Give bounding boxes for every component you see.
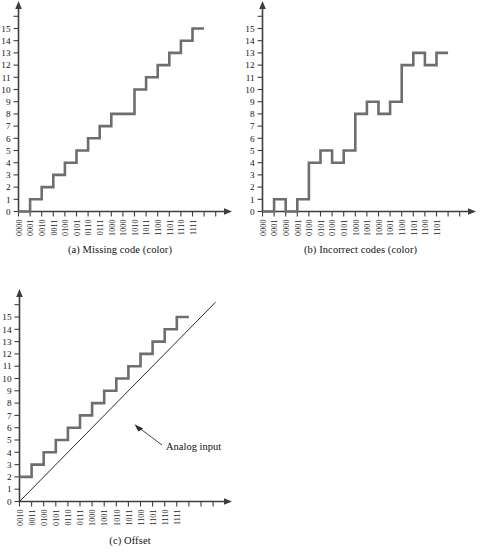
x-tick-label: 1000 xyxy=(108,220,117,236)
x-tick-label: 1101 xyxy=(166,220,175,236)
x-tick-label: 1011 xyxy=(125,510,134,526)
y-axis-arrow-a xyxy=(15,1,22,9)
y-tick-label: 15 xyxy=(2,312,12,322)
x-tick-label: 0100 xyxy=(305,220,314,236)
x-tick-label: 0100 xyxy=(61,220,70,236)
x-tick-label: 1011 xyxy=(142,220,151,236)
y-tick-label: 3 xyxy=(6,170,11,180)
y-tick-label: 15 xyxy=(1,24,11,34)
x-tick-label: 1100 xyxy=(398,220,407,236)
chart-c-analog-input-line xyxy=(20,302,216,501)
figure-adc-transfer-curves: 0123456789101112131415 00000001001000110… xyxy=(0,0,481,559)
y-tick-label: 1 xyxy=(250,195,255,205)
y-tick-label: 5 xyxy=(6,146,11,156)
x-axis-arrow-b xyxy=(468,208,476,215)
y-tick-label: 0 xyxy=(250,207,255,217)
x-tick-label: 1101 xyxy=(410,220,419,236)
y-tick-label: 12 xyxy=(245,60,255,70)
y-tick-label: 11 xyxy=(3,361,12,371)
x-tick-label: 1110 xyxy=(161,510,170,526)
x-tick-label: 1101 xyxy=(149,510,158,526)
y-tick-label: 3 xyxy=(250,170,255,180)
x-tick-label: 1010 xyxy=(131,220,140,236)
x-axis-arrow-a xyxy=(224,208,232,215)
x-tick-label: 0001 xyxy=(26,220,35,236)
x-tick-label: 1110 xyxy=(177,220,186,236)
chart-c-annotation-group: Analog input xyxy=(135,424,222,452)
chart-a-svg: 0123456789101112131415 00000001001000110… xyxy=(0,0,240,242)
x-tick-label: 0010 xyxy=(16,510,25,526)
chart-a-axes xyxy=(15,1,232,215)
y-tick-label: 4 xyxy=(6,158,11,168)
y-tick-label: 13 xyxy=(1,48,11,58)
y-tick-label: 14 xyxy=(2,325,12,335)
x-tick-label: 1001 xyxy=(386,220,395,236)
chart-b-svg: 0123456789101112131415 00000001000000010… xyxy=(240,0,481,242)
y-tick-label: 6 xyxy=(6,134,11,144)
y-tick-label: 4 xyxy=(250,158,255,168)
y-tick-label: 11 xyxy=(246,73,255,83)
chart-a-staircase xyxy=(19,29,205,212)
y-tick-label: 10 xyxy=(1,85,11,95)
y-tick-label: 9 xyxy=(7,386,12,396)
y-axis-arrow-c xyxy=(16,289,23,297)
y-tick-label: 5 xyxy=(7,435,12,445)
analog-input-label: Analog input xyxy=(166,441,221,452)
y-tick-label: 8 xyxy=(7,398,12,408)
panel-missing-code: 0123456789101112131415 00000001001000110… xyxy=(0,0,240,280)
x-tick-label: 1101 xyxy=(433,220,442,236)
y-tick-label: 6 xyxy=(7,423,12,433)
x-tick-label: 0100 xyxy=(40,510,49,526)
y-tick-label: 13 xyxy=(2,337,12,347)
y-tick-label: 15 xyxy=(245,24,255,34)
analog-input-leader-line xyxy=(138,427,162,445)
chart-b-staircase xyxy=(263,53,449,212)
y-tick-label: 2 xyxy=(250,182,255,192)
y-tick-label: 8 xyxy=(6,109,11,119)
x-tick-label: 0101 xyxy=(52,510,61,526)
y-tick-label: 12 xyxy=(2,349,12,359)
panel-incorrect-codes: 0123456789101112131415 00000001000000010… xyxy=(240,0,481,280)
x-tick-label: 0101 xyxy=(340,220,349,236)
chart-a-y-labels: 0123456789101112131415 xyxy=(1,24,11,217)
y-tick-label: 12 xyxy=(1,60,11,70)
y-tick-label: 1 xyxy=(7,484,12,494)
x-tick-label: 1001 xyxy=(363,220,372,236)
y-tick-label: 2 xyxy=(6,182,11,192)
y-tick-label: 10 xyxy=(245,85,255,95)
y-tick-label: 8 xyxy=(250,109,255,119)
caption-c: (c) Offset xyxy=(0,535,260,546)
caption-b: (b) Incorrect codes (color) xyxy=(240,244,481,255)
y-tick-label: 14 xyxy=(1,36,11,46)
x-tick-label: 1111 xyxy=(189,220,198,235)
y-tick-label: 1 xyxy=(6,195,11,205)
y-tick-label: 3 xyxy=(7,460,12,470)
y-tick-label: 13 xyxy=(245,48,255,58)
x-tick-label: 1111 xyxy=(173,510,182,525)
x-tick-label: 0101 xyxy=(73,220,82,236)
x-tick-label: 1100 xyxy=(421,220,430,236)
x-tick-label: 0111 xyxy=(76,510,85,526)
y-tick-label: 0 xyxy=(6,207,11,217)
chart-c-staircase xyxy=(20,317,189,477)
x-tick-label: 0000 xyxy=(259,220,268,236)
x-tick-label: 0010 xyxy=(38,220,47,236)
x-tick-label: 0000 xyxy=(282,220,291,236)
analog-input-arrow-icon xyxy=(135,424,144,431)
y-tick-label: 9 xyxy=(6,97,11,107)
y-axis-arrow-b xyxy=(259,1,266,9)
y-tick-label: 5 xyxy=(250,146,255,156)
y-tick-label: 0 xyxy=(7,497,12,507)
y-tick-label: 2 xyxy=(7,472,12,482)
x-tick-label: 0100 xyxy=(328,220,337,236)
x-tick-label: 1001 xyxy=(100,510,109,526)
x-tick-label: 1000 xyxy=(375,220,384,236)
chart-c-svg: 0123456789101112131415 00100011010001010… xyxy=(0,285,260,533)
y-tick-label: 9 xyxy=(250,97,255,107)
x-tick-label: 0111 xyxy=(96,220,105,236)
y-tick-label: 10 xyxy=(2,374,12,384)
x-tick-label: 1000 xyxy=(352,220,361,236)
x-tick-label: 0110 xyxy=(64,510,73,526)
y-tick-label: 6 xyxy=(250,134,255,144)
y-tick-label: 7 xyxy=(250,121,255,131)
